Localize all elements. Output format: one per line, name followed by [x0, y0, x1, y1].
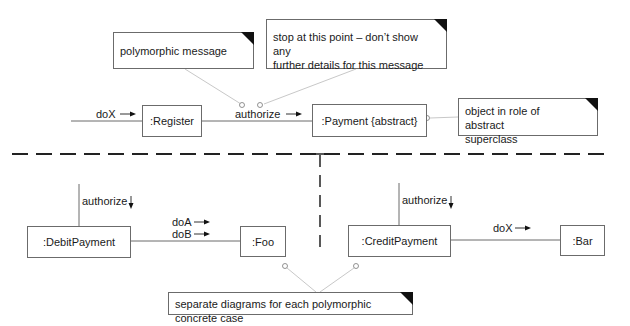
note-abstract-superclass: object in role of abstract superclass: [458, 98, 598, 136]
object-debit-payment-label: :DebitPayment: [43, 236, 115, 248]
note-fold-icon: [241, 32, 254, 45]
note-polymorphic-message: polymorphic message: [113, 32, 254, 69]
message-dob: doB: [172, 228, 192, 240]
note-stop-line-1: stop at this point – don’t show any: [273, 30, 428, 58]
object-foo-label: :Foo: [252, 236, 274, 248]
note-fold-icon: [434, 19, 447, 32]
arrow-right-icon: [515, 226, 531, 231]
arrow-down-icon: [129, 196, 134, 209]
anchor-circle: [283, 264, 288, 269]
anchor-circle: [258, 103, 263, 108]
anchor-circle: [240, 103, 245, 108]
message-dox-credit: doX: [493, 222, 513, 234]
anchor-circle: [354, 264, 359, 269]
object-payment-label: :Payment {abstract}: [322, 115, 418, 127]
message-doa: doA: [172, 216, 192, 228]
arrow-right-icon: [194, 220, 210, 225]
note-separate-text: separate diagrams for each polymorphic c…: [175, 297, 394, 325]
note-fold-icon: [400, 292, 413, 305]
note-stop-at-this-point: stop at this point – don’t show any furt…: [266, 19, 447, 69]
note-polymorphic-text: polymorphic message: [120, 44, 235, 58]
object-register-label: :Register: [150, 115, 194, 127]
note-connector-credit: [320, 268, 354, 292]
note-connector-stop: [264, 69, 356, 104]
message-dox-top: doX: [96, 108, 116, 120]
note-stop-line-2: further details for this message: [273, 58, 428, 72]
note-abstract-line-2: superclass: [465, 132, 579, 146]
message-authorize-credit: authorize: [402, 194, 447, 206]
note-fold-icon: [585, 98, 598, 111]
note-abstract-line-1: object in role of abstract: [465, 104, 579, 132]
object-credit-payment-label: :CreditPayment: [362, 235, 438, 247]
object-foo[interactable]: :Foo: [240, 226, 286, 257]
note-connector-foo: [287, 268, 316, 292]
arrow-right-icon: [120, 112, 136, 117]
note-separate-diagrams: separate diagrams for each polymorphic c…: [168, 292, 413, 315]
object-debit-payment[interactable]: :DebitPayment: [27, 226, 131, 258]
message-authorize-top: authorize: [235, 108, 280, 120]
object-bar[interactable]: :Bar: [560, 225, 605, 256]
object-bar-label: :Bar: [572, 235, 592, 247]
message-authorize-debit: authorize: [82, 195, 127, 207]
object-payment[interactable]: :Payment {abstract}: [312, 104, 427, 137]
note-connector-polymorphic: [185, 69, 241, 104]
arrow-right-icon: [286, 112, 302, 117]
object-register[interactable]: :Register: [142, 105, 202, 137]
arrow-down-icon: [449, 196, 454, 209]
arrow-right-icon: [194, 232, 210, 237]
object-credit-payment[interactable]: :CreditPayment: [348, 225, 451, 257]
note-connector-abstract: [430, 117, 458, 118]
